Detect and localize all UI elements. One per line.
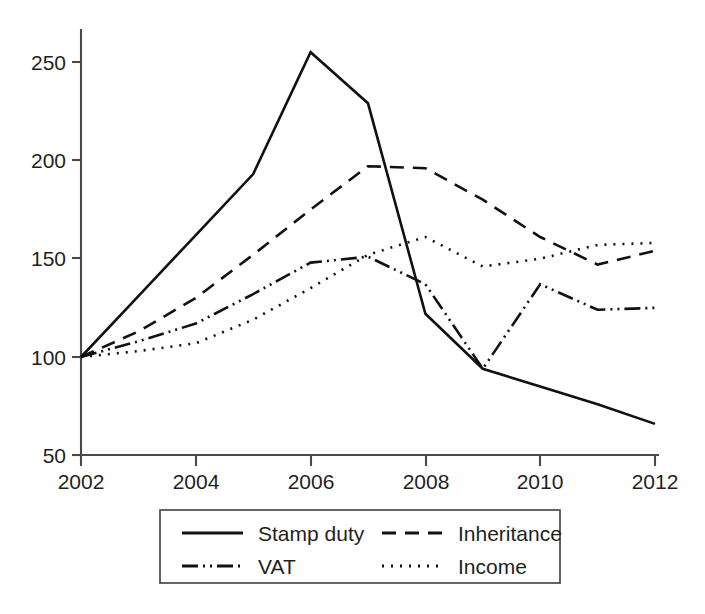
x-tick-label-2006: 2006 <box>288 470 335 493</box>
legend-label-stamp-duty: Stamp duty <box>258 522 365 545</box>
x-tick-label-2002: 2002 <box>58 470 105 493</box>
x-tick-label-2004: 2004 <box>173 470 220 493</box>
chart-series-group <box>81 52 655 424</box>
line-chart-figure: 250 200 150 100 50 2002 2004 2006 2008 2… <box>0 0 705 614</box>
legend-label-income: Income <box>458 555 527 578</box>
x-tick-label-2010: 2010 <box>517 470 564 493</box>
legend-label-vat: VAT <box>258 555 296 578</box>
series-line-vat <box>81 257 655 369</box>
chart-axes <box>81 30 658 455</box>
y-tick-label-250: 250 <box>31 51 66 74</box>
chart-svg: 250 200 150 100 50 2002 2004 2006 2008 2… <box>0 0 705 614</box>
y-tick-label-150: 150 <box>31 247 66 270</box>
y-axis-ticks: 250 200 150 100 50 <box>31 51 81 467</box>
y-tick-label-200: 200 <box>31 149 66 172</box>
x-tick-label-2012: 2012 <box>632 470 679 493</box>
y-tick-label-100: 100 <box>31 346 66 369</box>
legend-label-inheritance: Inheritance <box>458 522 562 545</box>
series-line-stamp-duty <box>81 52 655 424</box>
x-tick-label-2008: 2008 <box>403 470 450 493</box>
series-line-inheritance <box>81 166 655 357</box>
chart-legend: Stamp duty Inheritance VAT Income <box>160 510 562 583</box>
x-axis-ticks: 2002 2004 2006 2008 2010 2012 <box>58 455 679 493</box>
y-tick-label-50: 50 <box>43 444 66 467</box>
